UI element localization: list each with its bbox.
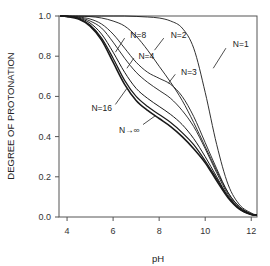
curve-label: N=8 — [130, 30, 146, 40]
x-tick-label: 12 — [246, 226, 256, 236]
x-tick-label: 10 — [200, 226, 210, 236]
y-axis-label: DEGREE OF PROTONATION — [5, 52, 16, 180]
x-axis-label: pH — [152, 253, 164, 264]
x-axis-ticks: 4681012 — [65, 217, 257, 236]
curve-label: N=4 — [138, 51, 154, 61]
curve-label: N=2 — [171, 30, 187, 40]
curve-n1 — [60, 16, 257, 215]
curve-n3 — [60, 16, 257, 215]
curve-label: N=3 — [181, 67, 197, 77]
y-tick-label: 0.4 — [38, 132, 51, 142]
x-tick-label: 4 — [65, 226, 70, 236]
y-axis-ticks: 0.00.20.40.60.81.0 — [38, 11, 59, 222]
curves — [60, 16, 257, 215]
curve-n16 — [60, 16, 257, 215]
y-tick-label: 1.0 — [38, 11, 51, 21]
y-tick-label: 0.2 — [38, 172, 51, 182]
x-tick-label: 8 — [157, 226, 162, 236]
curve-n2 — [60, 16, 257, 215]
curve-label: N=1 — [233, 39, 249, 49]
curve-label: N=16 — [91, 103, 112, 113]
curve-label: N→∞ — [119, 125, 140, 135]
curve-n8 — [60, 16, 257, 215]
y-tick-label: 0.8 — [38, 51, 51, 61]
y-tick-label: 0.6 — [38, 91, 51, 101]
x-tick-label: 6 — [111, 226, 116, 236]
protonation-chart: N=1N=2N=3N=4N=8N=16N→∞ 4681012 0.00.20.4… — [0, 0, 270, 266]
y-tick-label: 0.0 — [38, 212, 51, 222]
curve-n4 — [60, 16, 257, 215]
curve-n — [60, 16, 257, 215]
